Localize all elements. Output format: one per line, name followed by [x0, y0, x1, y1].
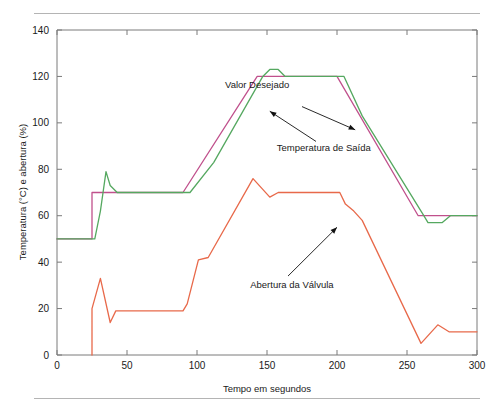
x-tick-label: 100 [189, 360, 206, 371]
chart-annotations: Valor DesejadoTemperatura de SaídaAbertu… [225, 79, 372, 290]
figure-container: 020406080100120140050100150200250300 Val… [0, 0, 501, 411]
x-tick-label: 50 [121, 360, 133, 371]
y-tick-label: 120 [32, 71, 49, 82]
annotation-label: Valor Desejado [225, 79, 289, 90]
y-tick-label: 140 [32, 25, 49, 36]
annotation-arrow-head [270, 111, 277, 117]
chart-series [57, 69, 477, 355]
y-tick-label: 80 [38, 164, 50, 175]
x-tick-label: 250 [399, 360, 416, 371]
series-line [92, 179, 477, 355]
annotation-label: Temperatura de Saída [277, 142, 372, 153]
annotation-arrow-shaft [288, 227, 337, 276]
x-tick-label: 300 [469, 360, 486, 371]
series-line [57, 76, 477, 239]
annotation-arrow-head [348, 125, 355, 130]
y-tick-label: 100 [32, 117, 49, 128]
annotation-arrow-shaft [270, 111, 316, 141]
x-tick-label: 200 [329, 360, 346, 371]
y-tick-label: 0 [43, 350, 49, 361]
annotation-label: Abertura da Válvula [250, 279, 334, 290]
series-line [57, 69, 477, 238]
y-axis-title: Temperatura (°C) e abertura (%) [17, 124, 28, 260]
x-axis-title: Tempo em segundos [223, 383, 311, 394]
y-tick-label: 60 [38, 210, 50, 221]
x-tick-label: 0 [54, 360, 60, 371]
annotation-arrow-shaft [302, 107, 355, 130]
y-tick-label: 40 [38, 257, 50, 268]
line-chart: 020406080100120140050100150200250300 Val… [0, 0, 501, 411]
x-tick-label: 150 [259, 360, 276, 371]
y-tick-label: 20 [38, 303, 50, 314]
